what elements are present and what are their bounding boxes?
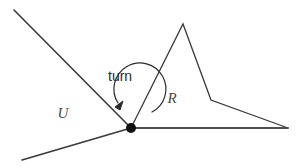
- turn-label: turn: [108, 68, 132, 84]
- region-label-u: U: [58, 105, 70, 121]
- vertex-point: [126, 123, 136, 133]
- geometry-figure: U R turn: [0, 0, 307, 167]
- region-label-r: R: [166, 90, 176, 106]
- figure-canvas: U R turn: [0, 0, 307, 167]
